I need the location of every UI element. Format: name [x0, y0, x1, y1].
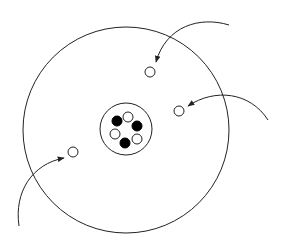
- nucleus-particle-filled: [112, 116, 122, 126]
- nucleus-particle-hollow: [123, 112, 133, 122]
- incoming-arrows: [18, 22, 268, 226]
- nucleus-particle-filled: [132, 121, 142, 131]
- arrow-bottom-left: [18, 158, 64, 226]
- outer-particle-left: [68, 147, 78, 157]
- nucleus-particle-filled: [120, 138, 130, 148]
- nucleus-particle-hollow: [132, 134, 142, 144]
- nucleus-particles: [110, 112, 142, 148]
- nucleus-particle-hollow: [110, 129, 120, 139]
- arrow-top-right: [156, 22, 229, 62]
- outer-particle-right: [174, 106, 184, 116]
- atom-diagram: [0, 0, 285, 246]
- outer-particle-top: [145, 67, 155, 77]
- outer-shell-circle: [23, 27, 229, 233]
